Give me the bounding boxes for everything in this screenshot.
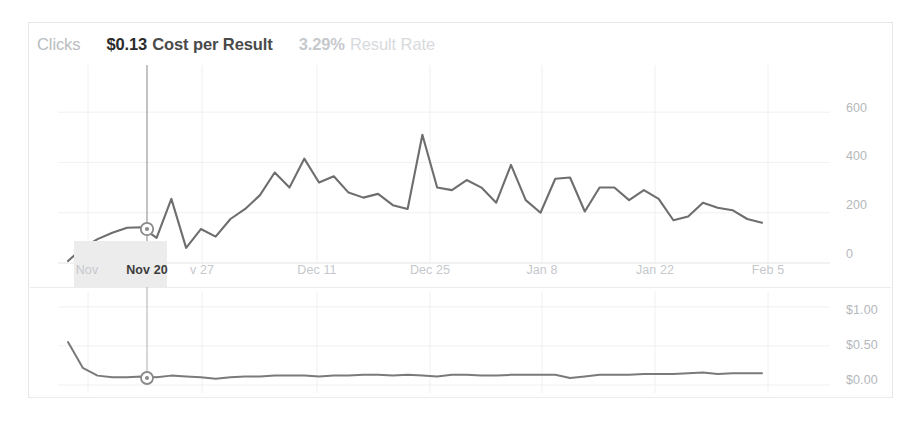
- cost-chart-gridlines: [58, 291, 830, 393]
- metric-result-rate-value: 3.29%: [299, 35, 345, 54]
- x-axis-label-jan-22[interactable]: Jan 22: [636, 263, 674, 277]
- metric-clicks[interactable]: Clicks: [32, 35, 80, 54]
- x-axis-labels: Nov Nov 20 v 27 Dec 11 Dec 25 Jan 8 Jan …: [30, 241, 893, 287]
- clicks-ytick-200: 200: [846, 198, 867, 212]
- cost-ytick-0-50: $0.50: [846, 338, 878, 352]
- x-axis-label-dec-25[interactable]: Dec 25: [410, 263, 450, 277]
- x-axis-label-nov-13[interactable]: Nov: [76, 263, 99, 277]
- screenshot-root: Clicks $0.13 Cost per Result 3.29% Resul…: [0, 0, 922, 422]
- x-axis-label-jan-8[interactable]: Jan 8: [526, 263, 557, 277]
- metric-clicks-label: Clicks: [37, 35, 80, 54]
- cost-y-axis: $1.00 $0.50 $0.00: [824, 287, 894, 397]
- clicks-ytick-400: 400: [846, 149, 867, 163]
- x-axis-label-nov-27[interactable]: v 27: [190, 263, 214, 277]
- x-axis-band[interactable]: Nov Nov 20 v 27 Dec 11 Dec 25 Jan 8 Jan …: [30, 241, 893, 287]
- metric-cost-per-result-value: $0.13: [106, 35, 147, 54]
- metric-result-rate-label: Result Rate: [350, 35, 435, 54]
- clicks-chart-gridlines: [58, 65, 830, 263]
- cost-hover-marker[interactable]: [141, 372, 153, 384]
- cost-per-result-chart[interactable]: [30, 287, 893, 397]
- cost-series-line: [68, 342, 762, 379]
- card-bottom-rule: [30, 397, 891, 398]
- x-axis-label-dec-11[interactable]: Dec 11: [297, 263, 336, 277]
- metric-cost-per-result[interactable]: $0.13 Cost per Result: [106, 35, 272, 54]
- metrics-header: Clicks $0.13 Cost per Result 3.29% Resul…: [29, 23, 892, 65]
- clicks-y-axis: 600 400 200 0: [824, 65, 894, 265]
- clicks-chart[interactable]: [30, 65, 893, 265]
- metric-result-rate[interactable]: 3.29% Result Rate: [299, 35, 435, 54]
- clicks-ytick-600: 600: [846, 101, 867, 115]
- x-axis-label-feb-5[interactable]: Feb 5: [752, 263, 784, 277]
- insights-chart-card: Clicks $0.13 Cost per Result 3.29% Resul…: [28, 22, 893, 398]
- x-axis-label-nov-20[interactable]: Nov 20: [126, 263, 168, 277]
- cost-ytick-0-00: $0.00: [846, 373, 878, 387]
- clicks-chart-canvas[interactable]: [30, 65, 893, 265]
- cost-per-result-chart-canvas[interactable]: [30, 287, 893, 397]
- clicks-hover-marker[interactable]: [141, 223, 153, 235]
- cost-ytick-1-00: $1.00: [846, 303, 878, 317]
- metric-cost-per-result-label: Cost per Result: [152, 35, 272, 54]
